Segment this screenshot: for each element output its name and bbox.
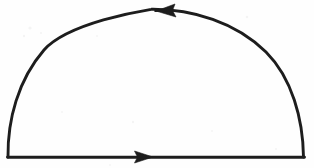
baseline-arrow-icon (135, 151, 154, 163)
semicircular-arc-path (8, 9, 304, 157)
contour-figure: Semicircular contour Hand-drawn closed s… (0, 0, 314, 168)
contour-diagram (0, 0, 314, 168)
